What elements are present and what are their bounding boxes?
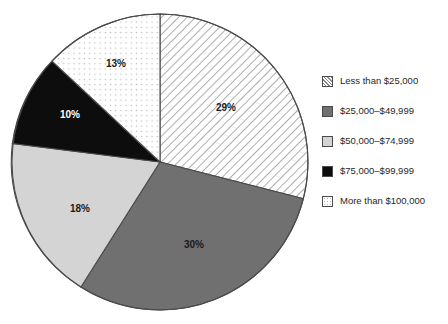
legend-item-label: Less than $25,000 <box>340 75 418 87</box>
legend: Less than $25,000 $25,000–$49,999 $50,00… <box>322 74 448 208</box>
legend-item-25000-49999[interactable]: $25,000–$49,999 <box>322 104 448 118</box>
pie-label-50000-74999: 18% <box>70 203 90 214</box>
pie-label-less-than-25000: 29% <box>216 102 236 113</box>
legend-item-50000-74999[interactable]: $50,000–$74,999 <box>322 134 448 148</box>
pie-chart-graphic: 29% 30% 18% 10% 13% <box>0 0 320 324</box>
black-swatch-icon <box>322 166 333 177</box>
hatch-diagonal-swatch-icon <box>322 76 333 87</box>
legend-item-label: $75,000–$99,999 <box>340 165 414 177</box>
dark-gray-swatch-icon <box>322 106 333 117</box>
light-gray-swatch-icon <box>322 136 333 147</box>
white-dotted-swatch-icon <box>322 196 333 207</box>
pie-label-75000-99999: 10% <box>60 109 80 120</box>
legend-item-label: $25,000–$49,999 <box>340 105 414 117</box>
legend-item-less-than-25000[interactable]: Less than $25,000 <box>322 74 448 88</box>
legend-item-label: More than $100,000 <box>340 195 425 207</box>
legend-item-more-than-100000[interactable]: More than $100,000 <box>322 194 448 208</box>
pie-chart-figure: 29% 30% 18% 10% 13% Less than $25,000 $2… <box>0 0 448 324</box>
legend-item-label: $50,000–$74,999 <box>340 135 414 147</box>
pie-label-25000-49999: 30% <box>184 239 204 250</box>
legend-item-75000-99999[interactable]: $75,000–$99,999 <box>322 164 448 178</box>
pie-label-more-than-100000: 13% <box>106 58 126 69</box>
